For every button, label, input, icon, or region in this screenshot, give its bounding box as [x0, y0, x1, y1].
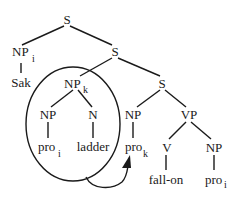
node-subscript: i — [224, 179, 227, 190]
node-label: NP — [64, 76, 81, 91]
node-v: V — [162, 140, 172, 155]
node-sak: Sak — [11, 75, 31, 90]
coreference-arrow — [86, 161, 129, 187]
node-pro-k: pro k — [125, 139, 148, 159]
node-s-root: S — [63, 12, 70, 27]
node-subscript: i — [32, 53, 35, 64]
node-np-inner: NP — [40, 107, 57, 122]
node-label: pro — [205, 172, 222, 187]
node-np-k: NP k — [64, 76, 88, 95]
node-ladder: ladder — [77, 139, 110, 154]
node-np-mid: NP — [125, 107, 142, 122]
node-s-3: S — [158, 76, 165, 91]
node-fall-on: fall-on — [149, 172, 184, 187]
node-pro-i-1: pro i — [38, 139, 61, 159]
node-label: pro — [125, 139, 142, 154]
node-np-right: NP — [206, 140, 223, 155]
node-vp: VP — [181, 107, 198, 122]
node-label: pro — [38, 139, 55, 154]
node-subscript: k — [83, 84, 88, 95]
arrow-head-icon — [122, 155, 131, 168]
node-s-2: S — [111, 44, 118, 59]
node-label: NP — [12, 44, 29, 59]
node-subscript: k — [143, 148, 148, 159]
node-pro-i-2: pro i — [205, 172, 227, 190]
node-np-i: NP i — [12, 44, 35, 64]
syntax-tree-diagram: S NP i Sak S NP k S NP pro i N ladder NP… — [0, 0, 238, 200]
node-n: N — [88, 107, 98, 122]
node-subscript: i — [58, 148, 61, 159]
